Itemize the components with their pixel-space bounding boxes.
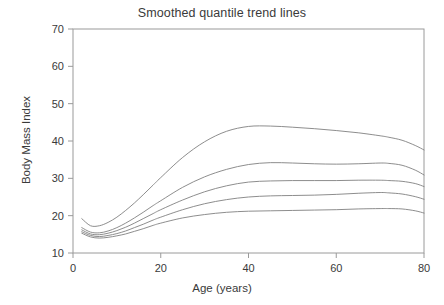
svg-text:40: 40 — [242, 262, 254, 274]
quantile-line — [82, 193, 424, 237]
plot-frame — [73, 29, 424, 253]
svg-text:0: 0 — [70, 262, 76, 274]
chart-figure: Smoothed quantile trend lines 1020304050… — [0, 0, 444, 305]
svg-text:70: 70 — [52, 23, 64, 35]
svg-text:60: 60 — [330, 262, 342, 274]
plot-area: 10203040506070020406080 — [0, 0, 444, 305]
quantile-line — [82, 163, 424, 233]
svg-text:50: 50 — [52, 98, 64, 110]
svg-text:30: 30 — [52, 172, 64, 184]
x-axis-label: Age (years) — [0, 282, 444, 294]
svg-text:10: 10 — [52, 247, 64, 259]
quantile-curves — [82, 126, 424, 238]
y-axis-label: Body Mass Index — [20, 70, 32, 210]
svg-text:60: 60 — [52, 60, 64, 72]
svg-text:40: 40 — [52, 135, 64, 147]
quantile-line — [82, 180, 424, 235]
axis-ticks: 10203040506070020406080 — [52, 23, 430, 274]
svg-text:20: 20 — [52, 210, 64, 222]
svg-text:80: 80 — [418, 262, 430, 274]
svg-text:20: 20 — [155, 262, 167, 274]
